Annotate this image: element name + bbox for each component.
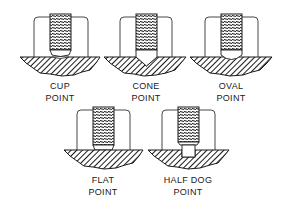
cup-point-label-line1: CUP (25, 80, 95, 92)
set-screw-diagram (0, 0, 288, 209)
half-dog-point-label-line2: POINT (153, 186, 223, 198)
cup-point-label: CUP POINT (25, 80, 95, 104)
oval-point-label-line1: OVAL (196, 80, 266, 92)
cone-point-figure (104, 14, 186, 76)
cup-screw-tip (50, 50, 71, 57)
flat-point-label: FLAT POINT (68, 174, 138, 198)
cone-screw-threads (136, 14, 157, 50)
half-dog-screw-tip (182, 145, 195, 157)
oval-point-figure (190, 14, 272, 76)
half-dog-point-figure (148, 107, 229, 169)
oval-point-label-line2: POINT (196, 92, 266, 104)
cup-point-label-line2: POINT (25, 92, 95, 104)
cone-point-label-line2: POINT (111, 92, 181, 104)
flat-screw-threads (93, 107, 114, 145)
flat-screw-tip (93, 145, 114, 150)
half-dog-point-label-line1: HALF DOG (153, 174, 223, 186)
flat-point-figure (64, 107, 143, 169)
cup-ground-hatch (20, 57, 100, 76)
half-dog-screw-threads (178, 107, 199, 142)
cup-point-figure (20, 14, 100, 76)
oval-screw-threads (221, 14, 242, 50)
cone-point-label-line1: CONE (111, 80, 181, 92)
flat-point-label-line2: POINT (68, 186, 138, 198)
oval-point-label: OVAL POINT (196, 80, 266, 104)
flat-point-label-line1: FLAT (68, 174, 138, 186)
half-dog-point-label: HALF DOG POINT (153, 174, 223, 198)
flat-ground-hatch (64, 150, 143, 169)
cone-point-label: CONE POINT (111, 80, 181, 104)
cup-screw-threads (50, 14, 71, 50)
